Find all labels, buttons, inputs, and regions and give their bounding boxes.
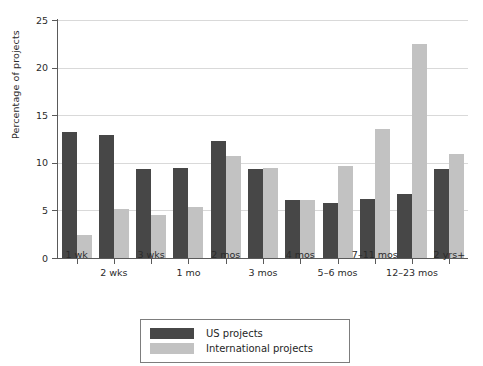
bar [136, 169, 151, 258]
bar-group [136, 20, 166, 258]
legend-label-international: International projects [206, 344, 313, 354]
y-axis-line [57, 19, 58, 259]
y-axis-tick-label: 20 [36, 63, 48, 73]
bar [397, 194, 412, 258]
bar [375, 129, 390, 258]
x-axis-tick [338, 258, 339, 264]
bar-group [248, 20, 278, 258]
y-axis-tick: 5 [52, 210, 58, 211]
y-axis-tick: 10 [52, 163, 58, 164]
x-axis-label: 2 mos [192, 250, 260, 260]
legend-label-us: US projects [206, 329, 263, 339]
bar-group [99, 20, 129, 258]
x-axis-label: 3 wks [117, 250, 185, 260]
y-axis-tick-label: 15 [36, 111, 48, 121]
x-axis-tick [188, 258, 189, 264]
plot-area: 0510152025 [58, 20, 468, 258]
x-axis-label: 3 mos [229, 268, 297, 278]
bar-group [173, 20, 203, 258]
plot-frame: 0510152025 [58, 20, 468, 258]
x-axis-label: 5–6 mos [304, 268, 372, 278]
bar [412, 44, 427, 258]
x-axis-label: 2 wks [80, 268, 148, 278]
bar-group [360, 20, 390, 258]
y-axis-tick: 20 [52, 68, 58, 69]
bar [434, 169, 449, 258]
x-axis-label: 4 mos [266, 250, 334, 260]
x-axis-label: 1 mo [154, 268, 222, 278]
bar [62, 132, 77, 258]
x-axis-label: 12–23 mos [378, 268, 446, 278]
bar [248, 169, 263, 258]
legend-item-international: International projects [150, 341, 339, 356]
bar [173, 168, 188, 258]
bar-group [434, 20, 464, 258]
bar [211, 141, 226, 258]
y-axis-tick: 25 [52, 20, 58, 21]
bar [449, 154, 464, 258]
bar-group [397, 20, 427, 258]
chart-page: Percentage of projects 0510152025 1 wk2 … [0, 0, 483, 366]
legend-swatch-international-icon [150, 343, 194, 354]
y-axis-tick-label: 25 [36, 16, 48, 26]
legend-swatch-us-icon [150, 328, 194, 339]
legend-item-us: US projects [150, 326, 339, 341]
bar-group [285, 20, 315, 258]
bar [338, 166, 353, 258]
chart-legend: US projects International projects [140, 319, 350, 363]
x-axis-label: 2 yrs+ [415, 250, 483, 260]
bar-group [211, 20, 241, 258]
bar-group [62, 20, 92, 258]
x-axis-tick [114, 258, 115, 264]
bar [99, 135, 114, 258]
y-axis-title: Percentage of projects [10, 30, 21, 139]
x-axis-label: 7–11 mos [341, 250, 409, 260]
bar [263, 168, 278, 258]
x-axis-tick [412, 258, 413, 264]
y-axis-tick: 15 [52, 115, 58, 116]
bar [226, 156, 241, 258]
bar-group [323, 20, 353, 258]
y-axis-tick-label: 5 [42, 206, 48, 216]
x-axis-tick [263, 258, 264, 264]
x-axis-label: 1 wk [43, 250, 111, 260]
y-axis-tick-label: 10 [36, 159, 48, 169]
